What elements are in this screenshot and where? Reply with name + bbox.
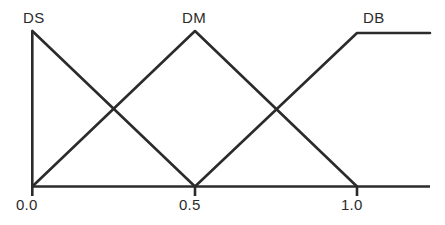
x-tick-label-zero: 0.0 xyxy=(16,197,37,212)
fuzzy-membership-figure: DS DM DB 0.0 0.5 1.0 xyxy=(0,0,445,225)
series-label-ds: DS xyxy=(23,10,44,25)
series-line-dm xyxy=(32,31,357,187)
series-label-db: DB xyxy=(363,10,384,25)
plot-canvas xyxy=(0,0,445,225)
series-label-dm: DM xyxy=(182,10,206,25)
series-line-db xyxy=(195,33,430,187)
x-tick-label-half: 0.5 xyxy=(179,197,200,212)
x-tick-label-one: 1.0 xyxy=(341,197,362,212)
